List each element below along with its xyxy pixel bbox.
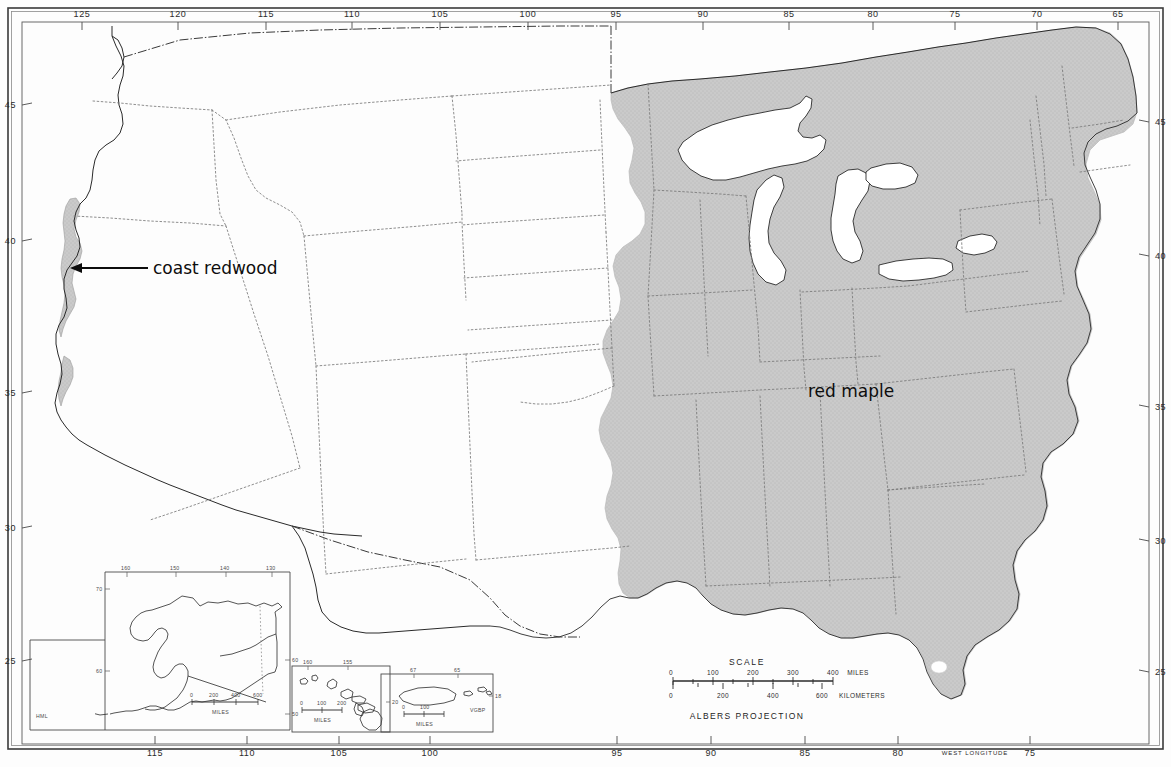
map-figure: coast redwood red maple 16: [0, 0, 1171, 767]
alaska-lon-140: 140: [220, 565, 230, 571]
hawaii-lon-155: 155: [343, 659, 353, 665]
lon-bottom-90: 90: [705, 748, 716, 758]
lon-bottom-80: 80: [892, 748, 903, 758]
scale-miles-unit: MILES: [847, 669, 869, 676]
lat-right-25: 25: [1155, 667, 1166, 677]
lake-okeechobee: [931, 661, 947, 673]
lat-right-35: 35: [1155, 402, 1166, 412]
hawaii-scale-unit: MILES: [314, 717, 331, 723]
puerto-rico-scale-0: 0: [402, 704, 405, 710]
scale-heading: SCALE: [729, 657, 765, 667]
scale-km-unit: KILOMETERS: [839, 692, 885, 699]
lon-bottom-105: 105: [331, 748, 348, 758]
lon-top-75: 75: [949, 9, 960, 19]
puerto-rico-lon-67: 67: [410, 667, 416, 673]
lon-top-115: 115: [258, 9, 274, 19]
puerto-rico-scale-unit: MILES: [416, 721, 433, 727]
lat-left-40: 40: [5, 236, 16, 246]
lon-top-80: 80: [867, 9, 878, 19]
lon-bottom-85: 85: [799, 748, 810, 758]
hawaii-lat-20: 20: [392, 699, 398, 705]
lon-top-100: 100: [520, 9, 537, 19]
scale-miles-200: 200: [747, 669, 759, 676]
alaska-lat-right-60: 60: [292, 657, 298, 663]
puerto-rico-scale-100: 100: [420, 704, 430, 710]
lon-top-125: 125: [74, 9, 91, 19]
lon-top-95: 95: [610, 9, 621, 19]
alaska-lon-150: 150: [170, 565, 180, 571]
lon-top-110: 110: [344, 9, 360, 19]
lat-left-45: 45: [5, 100, 16, 110]
scale-miles-0: 0: [669, 669, 673, 676]
projection-label: ALBERS PROJECTION: [690, 711, 805, 721]
alaska-lat-right-50: 50: [292, 711, 298, 717]
lon-bottom-110: 110: [239, 748, 255, 758]
lon-top-70: 70: [1031, 9, 1042, 19]
coast-redwood-label: coast redwood: [153, 258, 277, 278]
lon-bottom-95: 95: [611, 748, 622, 758]
alaska-lon-130: 130: [266, 565, 276, 571]
lon-top-65: 65: [1112, 9, 1123, 19]
scale-km-600: 600: [816, 692, 828, 699]
hawaii-scale-200: 200: [337, 700, 347, 706]
lat-right-45: 45: [1155, 117, 1166, 127]
puerto-rico-corner-label: VGBP: [470, 707, 486, 713]
west-longitude-caption: WEST LONGITUDE: [942, 750, 1009, 756]
scale-km-200: 200: [717, 692, 729, 699]
lat-right-40: 40: [1155, 251, 1166, 261]
alaska-lat-70: 70: [96, 586, 102, 592]
alaska-scale-0: 0: [190, 692, 193, 698]
lon-top-85: 85: [783, 9, 794, 19]
lon-bottom-75: 75: [1024, 748, 1035, 758]
hawaii-scale-100: 100: [317, 700, 327, 706]
hawaii-lon-160: 160: [303, 659, 313, 665]
lat-left-25: 25: [5, 656, 16, 666]
alaska-scale-unit: MILES: [212, 709, 229, 715]
scale-miles-100: 100: [707, 669, 719, 676]
alaska-scale-400: 400: [231, 692, 241, 698]
scale-km-0: 0: [669, 692, 673, 699]
lon-top-105: 105: [432, 9, 449, 19]
alaska-scale-200: 200: [209, 692, 219, 698]
hawaii-scale-0: 0: [300, 700, 303, 706]
lat-left-35: 35: [5, 388, 16, 398]
red-maple-label: red maple: [808, 381, 894, 401]
lon-top-120: 120: [170, 9, 187, 19]
lat-right-30: 30: [1155, 536, 1166, 546]
puerto-rico-lat-18: 18: [495, 693, 501, 699]
alaska-lat-60: 60: [96, 668, 102, 674]
alaska-hml-label: HML: [36, 713, 48, 719]
map-canvas: coast redwood red maple 16: [0, 0, 1171, 767]
lat-left-30: 30: [5, 523, 16, 533]
lon-bottom-115: 115: [147, 748, 163, 758]
scale-miles-300: 300: [787, 669, 799, 676]
alaska-lon-160: 160: [121, 565, 131, 571]
scale-miles-400: 400: [827, 669, 839, 676]
puerto-rico-lon-65: 65: [454, 667, 460, 673]
alaska-scale-600: 600: [253, 692, 263, 698]
lon-top-90: 90: [697, 9, 708, 19]
scale-km-400: 400: [767, 692, 779, 699]
lon-bottom-100: 100: [422, 748, 439, 758]
